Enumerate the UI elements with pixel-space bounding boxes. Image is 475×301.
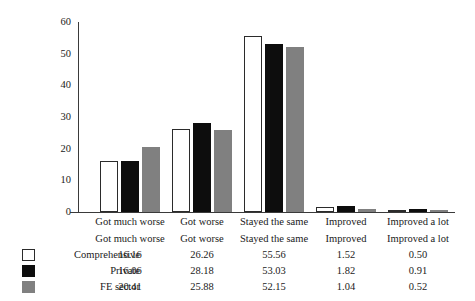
table-cell-value: 1.82 [337,263,355,279]
bar-group [100,22,160,212]
table-cell-value: 0.50 [409,247,427,263]
table-cell-value: 1.52 [337,247,355,263]
x-tick-label: Stayed the same [240,216,308,227]
table-cell-value: 16.16 [118,247,142,263]
y-tick-label: 20 [61,143,79,154]
legend-data-table: Got much worseGot worseStayed the sameIm… [0,231,475,295]
table-cell-value: 26.26 [190,247,214,263]
bar [286,47,304,212]
bar [316,207,334,212]
legend-swatch [22,249,35,261]
x-tick-label: Got much worse [95,216,164,227]
bar [430,210,448,212]
table-column-header: Improved [326,231,367,247]
x-axis-line [70,212,455,213]
table-row: FE sector20.4125.8852.151.040.52 [0,279,475,295]
table-column-header: Stayed the same [240,231,308,247]
bar [358,209,376,212]
table-cell-value: 20.41 [118,279,142,295]
bar [337,206,355,212]
bar [121,161,139,212]
table-cell-value: 53.03 [262,263,286,279]
y-tick-label: 60 [61,17,79,28]
table-row: Private16.0628.1853.031.820.91 [0,263,475,279]
y-tick-label: 50 [61,48,79,59]
table-row: Comprehensive16.1626.2655.561.520.50 [0,247,475,263]
bar [214,130,232,212]
bar-group [388,22,448,212]
bar-group [244,22,304,212]
x-tick-label: Got worse [180,216,223,227]
table-cell-value: 0.91 [409,263,427,279]
bar [388,210,406,212]
table-cell-value: 52.15 [262,279,286,295]
y-tick-label: 40 [61,80,79,91]
table-cell-value: 1.04 [337,279,355,295]
table-header-row: Got much worseGot worseStayed the sameIm… [0,231,475,247]
bar [265,44,283,212]
bar [244,36,262,212]
bar [409,209,427,212]
table-cell-value: 28.18 [190,263,214,279]
table-cell-value: 55.56 [262,247,286,263]
table-cell-value: 16.06 [118,263,142,279]
bar [100,161,118,212]
legend-swatch [22,265,35,277]
bar-group [316,22,376,212]
x-tick-label: Improved a lot [387,216,449,227]
table-column-header: Got worse [180,231,223,247]
bar [172,129,190,212]
y-tick-label: 30 [61,112,79,123]
bar [142,147,160,212]
plot-area [78,22,455,212]
y-tick-label: 10 [61,175,79,186]
y-axis-zero-tick [70,212,78,213]
table-column-header: Improved a lot [387,231,449,247]
legend-swatch [22,281,35,293]
bar [193,123,211,212]
table-column-header: Got much worse [95,231,164,247]
bar-chart-figure: Percentage 0102030405060 Got much worseG… [0,0,475,301]
x-tick-label: Improved [326,216,367,227]
bar-group [172,22,232,212]
table-cell-value: 0.52 [409,279,427,295]
table-cell-value: 25.88 [190,279,214,295]
